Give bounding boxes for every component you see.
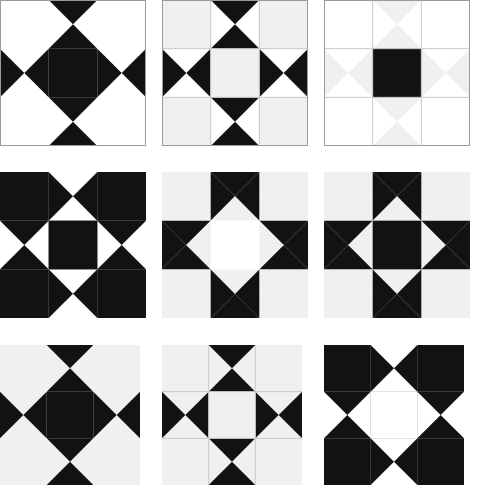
quilt-block-1 (0, 0, 146, 146)
quilt-block-cell (0, 345, 162, 485)
quilt-block-cell (162, 345, 324, 485)
quilt-block-svg-ohio-star-reverse-black-corners (0, 172, 146, 318)
quilt-block-5 (162, 172, 308, 318)
quilt-block-cell (0, 172, 162, 345)
quilt-block-svg-ohio-star-black-center (0, 0, 146, 146)
quilt-block-svg-eight-point-star-solid-black (324, 172, 470, 318)
quilt-block-8 (162, 345, 302, 485)
quilt-block-svg-ohio-star-black-center-borderless (0, 345, 140, 485)
quilt-block-cell (324, 0, 488, 172)
quilt-block-svg-ohio-star-outlined-center (162, 345, 302, 485)
quilt-block-cell (162, 0, 324, 172)
quilt-block-3 (324, 0, 470, 146)
quilt-block-svg-eight-point-star-light-center (162, 172, 308, 318)
quilt-block-svg-ohio-star-light-center (162, 0, 308, 146)
quilt-block-svg-ohio-star-ghost-black-center (324, 0, 470, 146)
quilt-block-cell (324, 172, 488, 345)
quilt-block-4 (0, 172, 146, 318)
quilt-block-7 (0, 345, 140, 485)
quilt-block-cell (162, 172, 324, 345)
quilt-block-cell (324, 345, 488, 485)
quilt-block-2 (162, 0, 308, 146)
quilt-block-svg-ohio-star-black-corners-white-center (324, 345, 464, 485)
quilt-block-grid (0, 0, 488, 485)
quilt-block-9 (324, 345, 464, 485)
quilt-block-6 (324, 172, 470, 318)
quilt-block-cell (0, 0, 162, 172)
